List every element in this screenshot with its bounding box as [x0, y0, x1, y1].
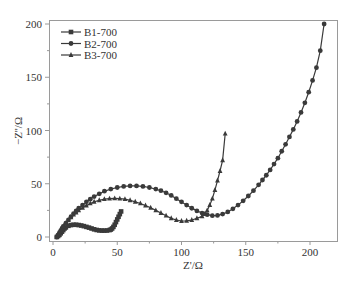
legend-marker-square-icon: [69, 30, 74, 35]
x-tick-label: 150: [238, 246, 255, 258]
legend-label: B2-700: [84, 38, 118, 50]
series-b3-700: [54, 131, 227, 239]
y-axis-ticks: 050100150200: [26, 18, 50, 243]
legend-marker-circle-icon: [69, 41, 74, 46]
x-tick-label: 0: [50, 246, 56, 258]
x-axis-label: Z'/Ω: [183, 259, 203, 271]
y-tick-label: 200: [26, 18, 43, 30]
legend-item-b2-700: B2-700: [61, 38, 118, 50]
legend-item-b1-700: B1-700: [61, 26, 118, 38]
y-tick-label: 0: [37, 231, 43, 243]
y-tick-label: 50: [31, 178, 43, 190]
x-tick-label: 50: [112, 246, 124, 258]
x-axis-ticks: 050100150200: [50, 241, 319, 258]
nyquist-chart: 050100150200 050100150200 Z'/Ω −Z''/Ω B1…: [0, 0, 355, 286]
legend-label: B3-700: [84, 49, 118, 61]
legend-label: B1-700: [84, 26, 118, 38]
x-tick-label: 200: [302, 246, 319, 258]
x-tick-label: 100: [173, 246, 190, 258]
y-tick-label: 100: [26, 125, 43, 137]
y-tick-label: 150: [26, 71, 43, 83]
legend-item-b3-700: B3-700: [61, 49, 118, 61]
legend: B1-700B2-700B3-700: [61, 26, 118, 61]
y-axis-label: −Z''/Ω: [12, 117, 24, 145]
